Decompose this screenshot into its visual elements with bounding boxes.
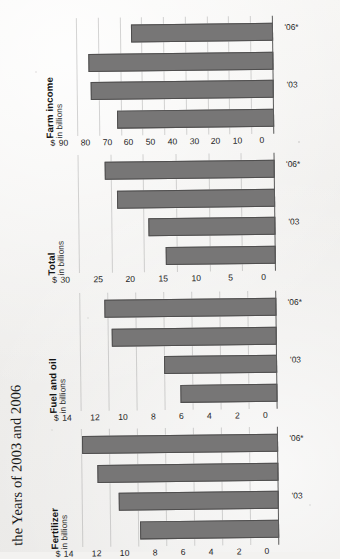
axis-baseline: [272, 16, 274, 134]
y-tick-label: 14: [62, 412, 72, 422]
bar: [165, 246, 276, 265]
bar: [98, 462, 279, 482]
y-tick-label: 5: [229, 272, 234, 282]
panel-header: Total in billions: [46, 241, 68, 276]
y-tick-label: 30: [60, 274, 70, 284]
x-tick-label: '03: [281, 491, 307, 509]
currency-symbol: $: [56, 548, 61, 558]
x-tick-label: '06*: [277, 159, 303, 177]
x-tick-label: '06*: [275, 22, 301, 40]
panel-header: Farm income in billions: [44, 77, 66, 139]
plot-area: [77, 16, 274, 136]
chart-panel-total: Total in billions 051015202530$ '03'06*: [44, 150, 307, 275]
y-tick-label: 6: [181, 547, 186, 557]
y-axis-ticks: 0102030405060708090$: [78, 137, 274, 139]
y-tick-label: 10: [120, 548, 130, 558]
y-tick-label: 40: [168, 136, 178, 146]
y-tick-label: 12: [90, 412, 100, 422]
bar: [91, 80, 274, 100]
bar-group: [79, 153, 276, 273]
y-tick-label: 30: [189, 136, 199, 146]
y-tick-label: 25: [93, 274, 103, 284]
figure-canvas: the Years of 2003 and 2006 Fertilizer in…: [0, 0, 340, 554]
bar-group: [82, 427, 279, 547]
bar: [148, 217, 276, 237]
plot-area: [82, 427, 279, 547]
currency-symbol: $: [51, 137, 56, 147]
panel-header: Fertilizer in billions: [49, 508, 71, 550]
y-tick-label: 70: [102, 137, 112, 147]
y-tick-label: 2: [237, 546, 242, 556]
x-tick-label: '03: [276, 80, 302, 98]
x-tick-label: [281, 519, 307, 537]
panel-subtitle: in billions: [57, 241, 67, 276]
y-tick-label: 12: [92, 548, 102, 558]
bar: [117, 188, 275, 208]
bar: [181, 384, 278, 403]
x-tick-label: '06*: [278, 297, 304, 315]
y-tick-label: 10: [118, 412, 128, 422]
y-tick-label: 0: [263, 410, 268, 420]
plot-area: [79, 153, 276, 273]
bar: [140, 520, 279, 540]
panel-subtitle: in billions: [58, 358, 69, 413]
bar: [117, 109, 274, 129]
bar-group: [80, 291, 277, 411]
x-tick-label: [279, 383, 305, 401]
bar: [105, 160, 275, 180]
y-tick-label: 0: [261, 272, 266, 282]
y-tick-label: 6: [179, 411, 184, 421]
x-tick-label: [278, 245, 304, 263]
x-axis-labels: '03'06*: [277, 152, 304, 270]
y-tick-label: 8: [151, 411, 156, 421]
x-tick-label: [276, 108, 302, 126]
figure-title: the Years of 2003 and 2006: [7, 385, 26, 546]
bar: [104, 298, 276, 318]
y-tick-label: 80: [81, 137, 91, 147]
bar-group: [77, 16, 274, 136]
y-tick-label: 2: [235, 410, 240, 420]
y-axis-ticks: 02468101214$: [82, 412, 278, 414]
axis-baseline: [275, 291, 277, 409]
x-axis-labels: '03'06*: [275, 15, 302, 133]
y-tick-label: 15: [158, 273, 168, 283]
chart-panel-fuel-and-oil: Fuel and oil in billions 02468101214$ '0…: [46, 288, 309, 413]
y-tick-label: 10: [233, 135, 243, 145]
axis-baseline: [277, 427, 279, 545]
x-tick-label: [275, 51, 301, 69]
y-tick-label: 0: [260, 135, 265, 145]
y-axis-ticks: 02468101214$: [83, 548, 279, 550]
y-tick-label: 0: [265, 546, 270, 556]
y-tick-label: 50: [146, 136, 156, 146]
x-tick-label: '06*: [280, 433, 306, 451]
bar: [111, 326, 276, 346]
y-tick-label: 14: [64, 548, 74, 558]
y-axis-ticks: 051015202530$: [80, 274, 276, 276]
panel-header: Fuel and oil in billions: [47, 358, 69, 413]
x-axis-labels: '03'06*: [280, 426, 307, 544]
y-tick-label: 60: [124, 136, 134, 146]
y-tick-label: 20: [126, 273, 136, 283]
panel-subtitle: in billions: [55, 77, 66, 138]
bar: [164, 355, 278, 374]
x-tick-label: [279, 326, 305, 344]
bar: [88, 51, 273, 71]
y-tick-label: 8: [153, 547, 158, 557]
x-tick-label: '03: [279, 355, 305, 373]
plot-area: [80, 291, 277, 411]
x-tick-label: [277, 188, 303, 206]
x-tick-label: '03: [277, 217, 303, 235]
bar: [82, 434, 278, 454]
y-tick-label: 90: [59, 137, 69, 147]
x-tick-label: [280, 462, 306, 480]
chart-panel-farm-income: Farm income in billions 0102030405060708…: [43, 13, 306, 138]
y-tick-label: 4: [209, 546, 214, 556]
y-tick-label: 20: [211, 135, 221, 145]
currency-symbol: $: [54, 412, 59, 422]
chart-panel-fertilizer: Fertilizer in billions 02468101214$ '03'…: [48, 424, 311, 549]
bar: [131, 23, 273, 43]
panel-subtitle: in billions: [60, 508, 70, 550]
currency-symbol: $: [52, 274, 57, 284]
y-tick-label: 10: [191, 273, 201, 283]
bar: [119, 491, 279, 511]
